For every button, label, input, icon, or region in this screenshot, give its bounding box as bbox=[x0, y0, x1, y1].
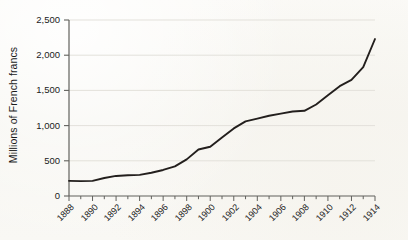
data-line-series-1 bbox=[69, 39, 375, 181]
y-tick-label-2500: 2,500 bbox=[36, 14, 60, 25]
x-axis-ticks bbox=[69, 196, 375, 201]
y-tick-label-500: 500 bbox=[44, 155, 60, 166]
y-tick-label-0: 0 bbox=[55, 190, 60, 201]
plot-area bbox=[0, 0, 408, 240]
chart-figure: Millions of French francs 2,5002,0001,50… bbox=[0, 0, 408, 240]
y-tick-label-2000: 2,000 bbox=[36, 49, 60, 60]
gridlines bbox=[69, 20, 375, 161]
y-tick-label-1000: 1,000 bbox=[36, 120, 60, 131]
axis-lines bbox=[69, 20, 375, 196]
y-tick-label-1500: 1,500 bbox=[36, 84, 60, 95]
y-axis-ticks bbox=[64, 20, 69, 196]
